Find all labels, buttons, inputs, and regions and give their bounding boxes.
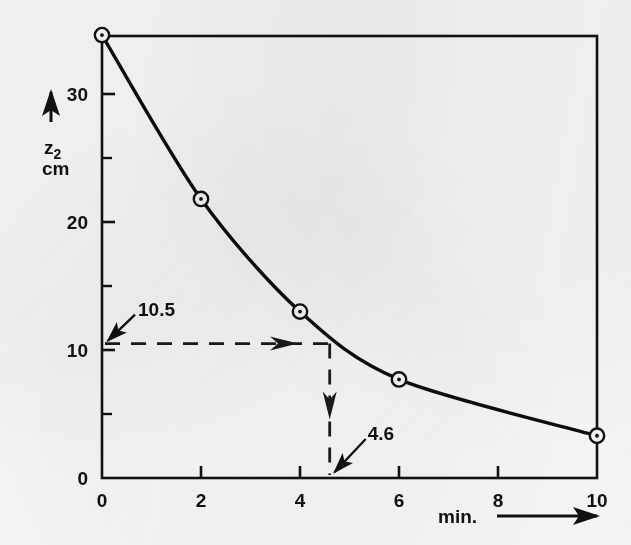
x-tick-label: 2 [196, 490, 207, 511]
y-axis-ticks: 0102030 [67, 84, 115, 489]
annotation-4-6-label: 4.6 [368, 423, 394, 444]
x-axis-label-min: min. [438, 506, 477, 527]
x-axis-ticks: 0246810 [97, 466, 608, 511]
y-axis-caption: z2cm [42, 92, 69, 179]
y-tick-label: 10 [67, 340, 88, 361]
annotation-10-5-leader [108, 315, 135, 341]
x-axis-caption: min. [438, 506, 597, 527]
data-point-center-dot [100, 33, 104, 37]
y-tick-label: 0 [77, 468, 88, 489]
x-tick-label: 4 [295, 490, 306, 511]
plot-frame [102, 36, 597, 478]
figure-chart-z2-vs-time: 0102030024681010.54.6z2cmmin. [0, 0, 631, 545]
x-tick-label: 6 [394, 490, 405, 511]
data-point-markers [95, 28, 604, 443]
data-point-center-dot [595, 434, 599, 438]
data-point-center-dot [298, 310, 302, 314]
annotation-4-6-leader [335, 439, 366, 472]
y-tick-label: 20 [67, 212, 88, 233]
data-point-center-dot [199, 197, 203, 201]
x-tick-label: 8 [493, 490, 504, 511]
data-curve [102, 35, 597, 436]
y-tick-label: 30 [67, 84, 88, 105]
x-tick-label: 0 [97, 490, 108, 511]
x-tick-label: 10 [586, 490, 607, 511]
data-point-center-dot [397, 378, 401, 382]
annotation-10-5-label: 10.5 [138, 299, 175, 320]
annotation-group: 10.54.6 [105, 299, 394, 475]
y-axis-unit-label: cm [42, 158, 69, 179]
